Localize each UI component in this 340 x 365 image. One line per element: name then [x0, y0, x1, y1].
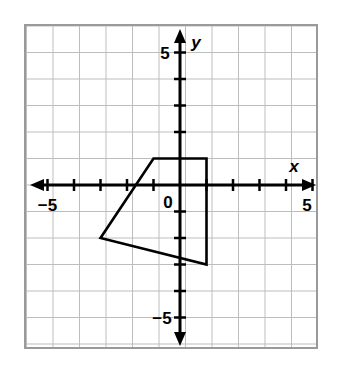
x-axis-label: x: [288, 157, 300, 176]
coordinate-plane-figure: −5 5 5 −5 0 x y: [0, 0, 340, 365]
origin-label: 0: [163, 193, 172, 212]
x-axis-negative-tick-label: −5: [38, 196, 57, 215]
x-axis-positive-tick-label: 5: [302, 196, 311, 215]
coordinate-plane-svg: −5 5 5 −5 0 x y: [0, 0, 340, 365]
y-axis-positive-tick-label: 5: [160, 44, 169, 63]
y-axis-negative-tick-label: −5: [152, 309, 171, 328]
y-axis-label: y: [190, 33, 202, 52]
